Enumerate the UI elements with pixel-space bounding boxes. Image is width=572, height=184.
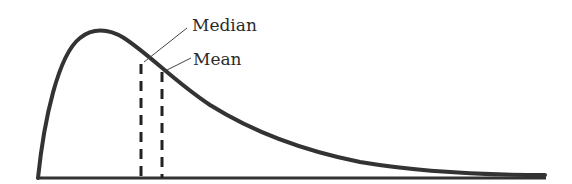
density-curve	[38, 31, 545, 179]
median-label: Median	[192, 15, 257, 35]
skewed-distribution-diagram: Median Mean	[0, 0, 572, 184]
mean-leader-line	[165, 58, 191, 71]
mean-label: Mean	[193, 49, 242, 69]
median-leader-line	[144, 28, 187, 62]
